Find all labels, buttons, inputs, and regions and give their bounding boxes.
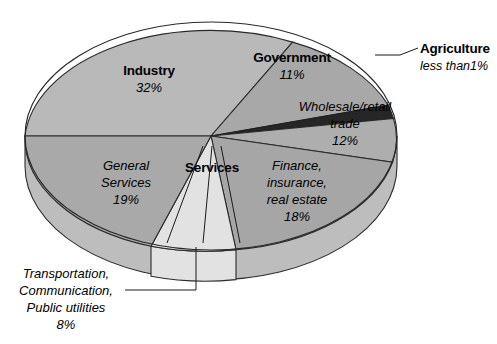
label-finance-line2: insurance,: [267, 175, 327, 190]
label-general-services-line2: Services: [101, 175, 151, 190]
label-industry-name: Industry: [123, 63, 175, 78]
label-wholesale-line1: Wholesale/retail: [299, 99, 393, 114]
label-wholesale-line2: trade: [330, 116, 360, 131]
label-services-group-name: Services: [185, 160, 239, 175]
label-services-group: Services: [185, 160, 239, 175]
label-finance-line1: Finance,: [272, 158, 322, 173]
pie-chart-figure: Industry 32% Government 11% Agriculture …: [0, 0, 497, 344]
label-finance-pct: 18%: [284, 209, 310, 224]
label-government-name: Government: [253, 50, 331, 65]
label-transportation-line1: Transportation,: [23, 266, 109, 281]
leader-line-agriculture: [375, 48, 418, 55]
label-agriculture-pct: less than1%: [420, 59, 488, 73]
label-transportation: Transportation, Communication, Public ut…: [19, 266, 113, 332]
label-transportation-pct: 8%: [57, 317, 76, 332]
label-industry-pct: 32%: [136, 80, 162, 95]
label-agriculture: Agriculture less than1%: [420, 41, 491, 73]
label-general-services-pct: 19%: [113, 192, 139, 207]
label-finance-line3: real estate: [267, 192, 328, 207]
pie-chart-svg: Industry 32% Government 11% Agriculture …: [0, 0, 497, 344]
label-wholesale-pct: 12%: [332, 133, 358, 148]
label-transportation-line3: Public utilities: [27, 300, 106, 315]
label-government-pct: 11%: [279, 67, 304, 82]
label-transportation-line2: Communication,: [19, 283, 113, 298]
label-general-services-line1: General: [103, 158, 150, 173]
label-agriculture-name: Agriculture: [420, 41, 491, 56]
